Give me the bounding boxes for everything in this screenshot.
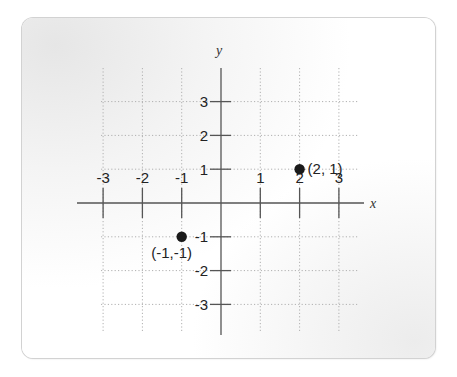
point-label: (-1,-1)	[151, 244, 192, 261]
y-tick-label: 3	[200, 93, 208, 110]
x-tick-label: 1	[256, 169, 264, 186]
x-tick-label: -1	[175, 169, 188, 186]
grid-lines	[101, 68, 358, 333]
x-tick-label: -3	[96, 169, 109, 186]
point-label: (2, 1)	[308, 160, 343, 177]
data-point	[294, 164, 304, 174]
y-tick-label: 1	[200, 161, 208, 178]
x-axis-label: x	[369, 196, 377, 211]
y-tick-label: 2	[200, 127, 208, 144]
y-axis-label: y	[214, 43, 223, 58]
y-tick-label: -3	[195, 296, 208, 313]
x-tick-label: -2	[136, 169, 149, 186]
data-point	[177, 232, 187, 242]
y-tick-label: -2	[195, 262, 208, 279]
coordinate-plane: x y -3-2-1123321-1-2-3 (2, 1)(-1,-1)	[0, 0, 457, 377]
axes: x y	[77, 43, 377, 335]
y-tick-label: -1	[195, 228, 208, 245]
